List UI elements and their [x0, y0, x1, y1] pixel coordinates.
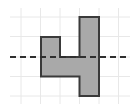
figure-canvas — [0, 0, 140, 112]
geometry-figure — [0, 0, 140, 112]
